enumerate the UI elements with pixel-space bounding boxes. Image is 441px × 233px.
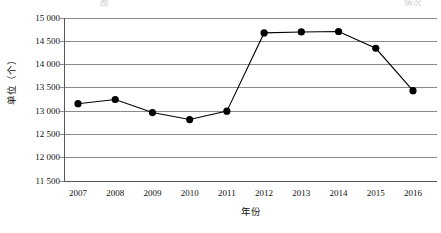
x-axis-tick-label: 2011 — [207, 188, 247, 198]
data-point-marker — [261, 29, 268, 36]
x-axis-tick-label: 2014 — [319, 188, 359, 198]
y-axis-ticks — [60, 18, 64, 181]
data-series-line — [78, 32, 413, 120]
data-line — [78, 32, 413, 120]
x-axis-tick-label: 2012 — [244, 188, 284, 198]
data-point-marker — [335, 28, 342, 35]
data-point-marker — [186, 116, 193, 123]
x-axis-title: 年份 — [64, 206, 438, 218]
gridlines — [64, 18, 437, 181]
x-axis-tick-label: 2016 — [393, 188, 433, 198]
data-point-marker — [409, 87, 416, 94]
x-axis-tick-label: 2013 — [281, 188, 321, 198]
x-axis-tick-label: 2007 — [58, 188, 98, 198]
x-axis-tick-label: 2010 — [170, 188, 210, 198]
data-point-marker — [298, 28, 305, 35]
x-axis-tick-label: 2008 — [95, 188, 135, 198]
data-point-marker — [74, 100, 81, 107]
plot-border — [64, 18, 437, 181]
line-chart: 图 情况 单位（个） 15 00014 50014 00013 50013 00… — [0, 0, 441, 233]
data-point-marker — [112, 96, 119, 103]
data-point-marker — [149, 109, 156, 116]
x-axis-tick-label: 2015 — [356, 188, 396, 198]
plot-area — [0, 0, 441, 233]
data-point-marker — [372, 45, 379, 52]
data-point-marker — [223, 108, 230, 115]
x-axis-tick-label: 2009 — [132, 188, 172, 198]
data-markers — [74, 28, 416, 123]
